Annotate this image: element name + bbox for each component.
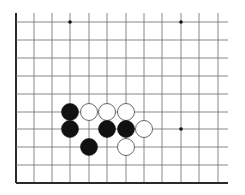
star-point [179,127,183,131]
black-stone [99,121,116,138]
black-stone [81,139,98,156]
go-board[interactable] [0,0,245,195]
black-stone [118,121,135,138]
board-background [0,0,245,195]
white-stone [136,121,153,138]
white-stone [118,139,135,156]
star-point [179,20,183,24]
white-stone [99,104,116,121]
black-stone [62,104,79,121]
star-point [68,20,72,24]
white-stone [118,104,135,121]
white-stone [81,104,98,121]
black-stone [62,121,79,138]
